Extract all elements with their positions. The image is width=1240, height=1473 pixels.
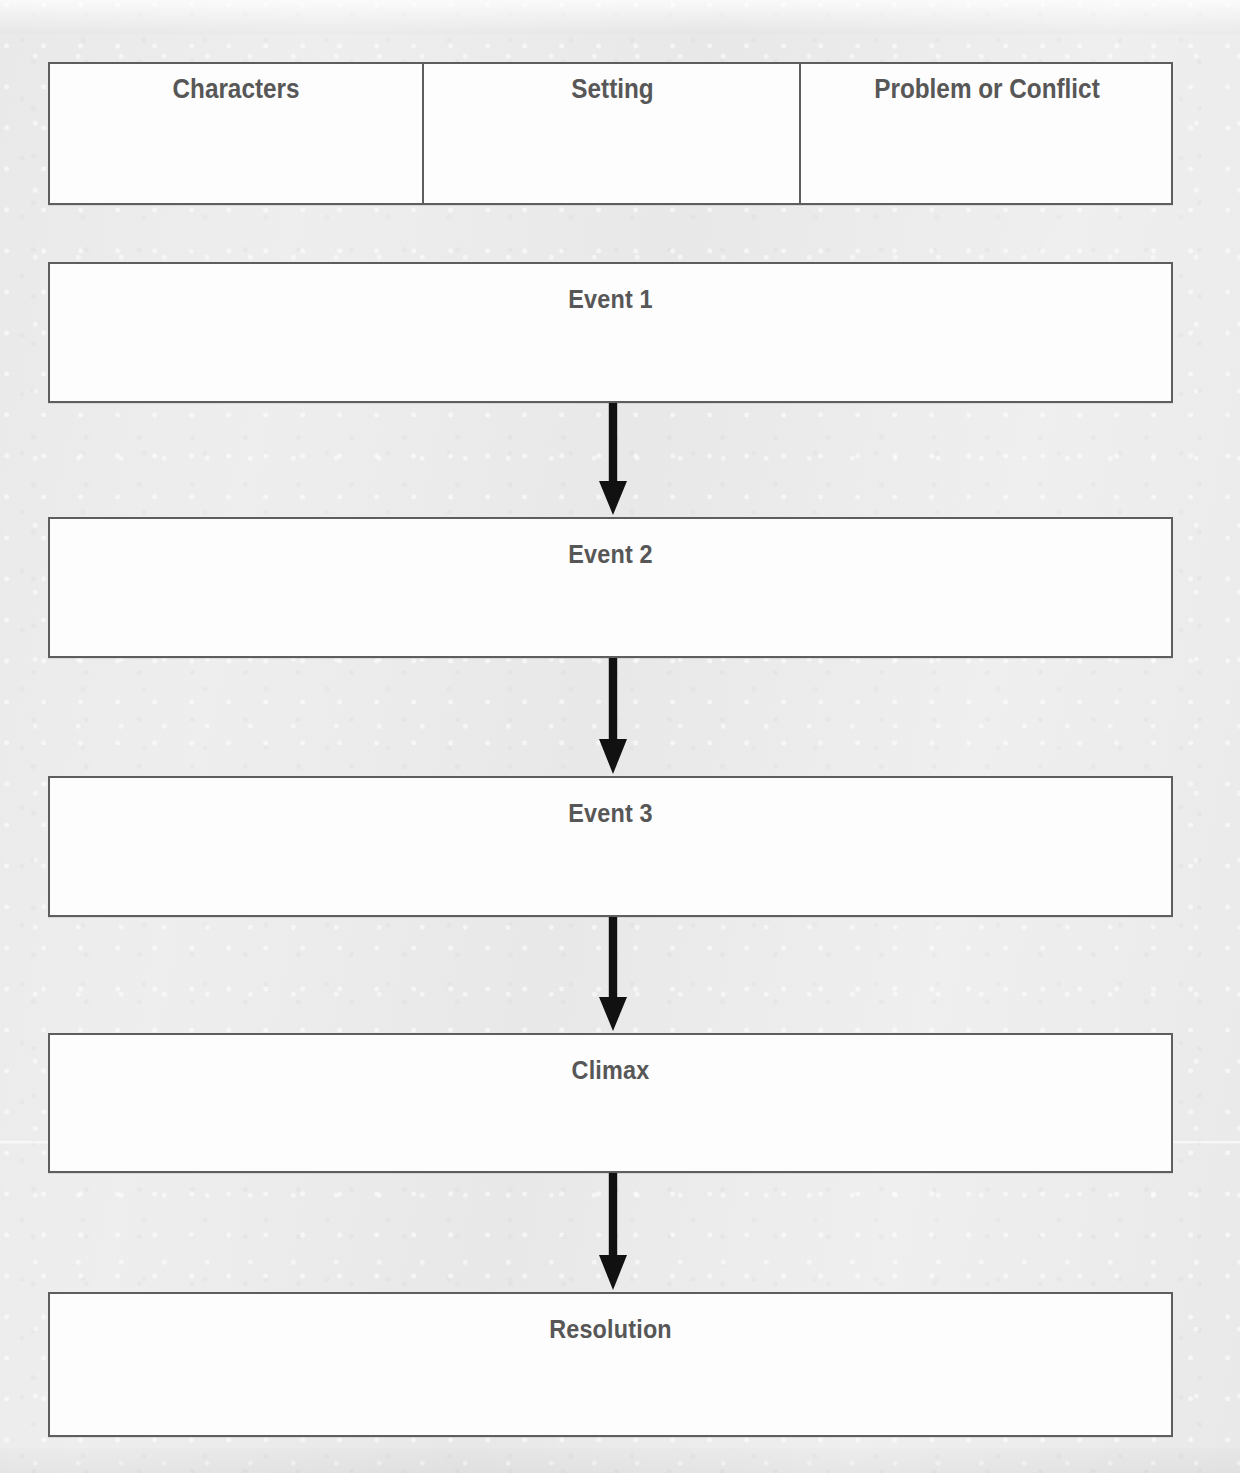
box-climax[interactable]: Climax: [48, 1033, 1173, 1173]
box-event-2[interactable]: Event 2: [48, 517, 1173, 658]
box-climax-label: Climax: [106, 1055, 1115, 1086]
cell-characters[interactable]: Characters: [50, 64, 422, 203]
box-resolution-label: Resolution: [106, 1314, 1115, 1345]
cell-characters-label: Characters: [69, 74, 404, 105]
cell-setting-label: Setting: [443, 74, 782, 105]
box-event-1-label: Event 1: [106, 284, 1115, 315]
box-resolution[interactable]: Resolution: [48, 1292, 1173, 1437]
box-event-2-label: Event 2: [106, 539, 1115, 570]
box-event-3[interactable]: Event 3: [48, 776, 1173, 917]
box-event-1[interactable]: Event 1: [48, 262, 1173, 403]
story-elements-header-row: Characters Setting Problem or Conflict: [48, 62, 1173, 205]
box-event-3-label: Event 3: [106, 798, 1115, 829]
cell-problem-or-conflict-label: Problem or Conflict: [820, 74, 1155, 105]
cell-setting[interactable]: Setting: [422, 64, 801, 203]
page-background: [0, 0, 1240, 1473]
cell-problem-or-conflict[interactable]: Problem or Conflict: [799, 64, 1173, 203]
